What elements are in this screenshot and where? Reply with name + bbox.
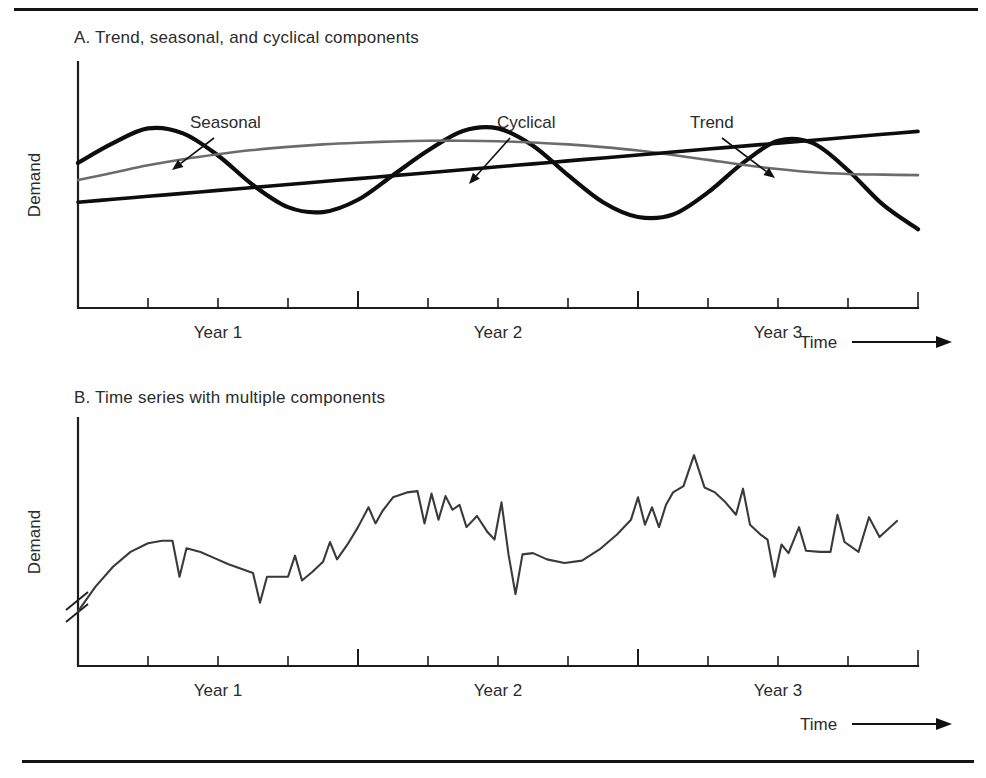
panel-b-y-axis-label: Demand <box>25 510 44 574</box>
panel-b-x-tick-label: Year 1 <box>194 681 243 700</box>
panel-a-x-tick-label: Year 1 <box>194 323 243 342</box>
annotation-label-trend: Trend <box>690 113 734 132</box>
panel-a-y-axis-label: Demand <box>25 153 44 217</box>
annotation-label-cyclical: Cyclical <box>497 113 556 132</box>
panel-a-x-tick-label: Year 3 <box>754 323 803 342</box>
panel-a-time-arrow-head <box>936 336 952 348</box>
panel-b-x-tick-label: Year 3 <box>754 681 803 700</box>
panel-b-chart: Year 1Year 2Year 3DemandTime <box>0 378 986 748</box>
demand-series-line <box>78 455 897 611</box>
panel-a-x-tick-label: Year 2 <box>474 323 523 342</box>
panel-b: B. Time series with multiple components … <box>0 378 986 748</box>
panel-b-x-axis-label: Time <box>800 715 837 734</box>
annotation-arrow-cyclical <box>469 138 510 184</box>
panel-a-x-axis-label: Time <box>800 333 837 352</box>
annotation-arrow-seasonal <box>172 138 214 170</box>
panel-a-chart: Year 1Year 2Year 3DemandTimeSeasonalCycl… <box>0 18 986 378</box>
annotation-label-seasonal: Seasonal <box>190 113 261 132</box>
panel-b-time-arrow-head <box>936 718 952 730</box>
figure-root: A. Trend, seasonal, and cyclical compone… <box>0 0 986 778</box>
panel-b-x-tick-label: Year 2 <box>474 681 523 700</box>
panel-a: A. Trend, seasonal, and cyclical compone… <box>0 18 986 378</box>
figure-bottom-rule <box>22 760 974 763</box>
figure-top-rule <box>14 8 978 11</box>
panel-a-axes <box>78 62 918 308</box>
